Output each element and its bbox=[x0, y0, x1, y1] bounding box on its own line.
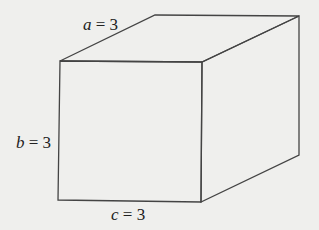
right-face bbox=[201, 16, 299, 202]
front-face bbox=[58, 61, 202, 202]
label-c: c = 3 bbox=[111, 205, 145, 224]
label-b: b = 3 bbox=[16, 133, 51, 152]
label-a: a = 3 bbox=[83, 15, 118, 34]
cube-diagram: a = 3 b = 3 c = 3 bbox=[0, 0, 319, 230]
